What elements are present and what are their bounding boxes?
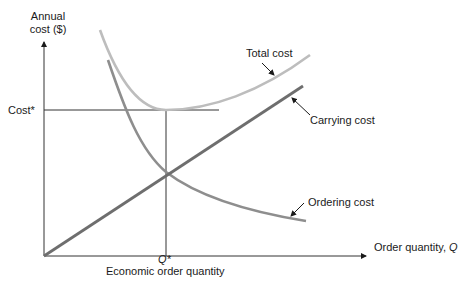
y-axis-label-line1: Annual xyxy=(26,10,70,23)
cost-star-label: Cost* xyxy=(8,104,35,117)
eoq-label: Economic order quantity xyxy=(106,265,225,278)
y-axis-label: Annual cost ($) xyxy=(26,10,70,36)
ordering-cost-pointer xyxy=(291,203,304,216)
total-cost-pointer xyxy=(262,63,274,75)
y-axis-label-line2: cost ($) xyxy=(26,23,70,36)
x-axis-variable: Q xyxy=(449,241,458,253)
total-cost-label: Total cost xyxy=(246,47,292,60)
carrying-cost-pointer xyxy=(292,98,310,115)
x-axis-label: Order quantity, Q xyxy=(374,241,458,254)
carrying-cost-line xyxy=(44,86,303,256)
ordering-cost-curve xyxy=(108,60,306,221)
total-cost-curve xyxy=(100,30,310,110)
x-axis-label-text: Order quantity, xyxy=(374,241,449,253)
ordering-cost-label: Ordering cost xyxy=(308,196,374,209)
carrying-cost-label: Carrying cost xyxy=(310,114,375,127)
